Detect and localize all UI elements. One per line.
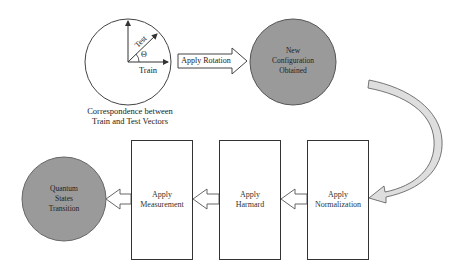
vector-circle xyxy=(85,19,171,105)
final-line-3: Transition xyxy=(29,204,99,214)
arrow-harmard-to-measurement xyxy=(193,189,219,209)
new-config-line-3: Obtained xyxy=(258,66,328,76)
normalization-line-1: Apply xyxy=(328,190,348,200)
normalization-line-2: Normalization xyxy=(315,200,361,210)
harmard-line-1: Apply xyxy=(240,190,260,200)
final-line-1: Quantum xyxy=(29,184,99,194)
normalization-box: Apply Normalization xyxy=(307,140,369,260)
caption-line-1: Correspondence between xyxy=(87,106,173,116)
vector-caption: Correspondence between Train and Test Ve… xyxy=(80,106,180,126)
new-config-node: New Configuration Obtained xyxy=(258,46,328,76)
theta-label: Θ xyxy=(139,50,149,60)
harmard-line-2: Harmard xyxy=(236,200,264,210)
rotation-arrow-label: Apply Rotation xyxy=(180,56,232,66)
train-label: Train xyxy=(130,65,166,75)
arrow-normalization-to-harmard xyxy=(281,189,307,209)
harmard-box: Apply Harmard xyxy=(219,140,281,260)
curved-arrow xyxy=(368,80,442,203)
final-line-2: States xyxy=(29,194,99,204)
caption-line-2: Train and Test Vectors xyxy=(92,116,168,126)
new-config-line-2: Configuration xyxy=(258,56,328,66)
final-node: Quantum States Transition xyxy=(29,184,99,214)
new-config-line-1: New xyxy=(258,46,328,56)
measurement-line-1: Apply xyxy=(152,190,172,200)
measurement-line-2: Measurement xyxy=(140,200,184,210)
arrow-measurement-to-quantum xyxy=(106,189,131,209)
measurement-box: Apply Measurement xyxy=(131,140,193,260)
